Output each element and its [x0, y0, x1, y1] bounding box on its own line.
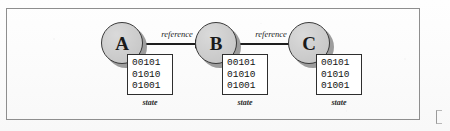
- state-box-b: 00101 01010 01001: [222, 54, 268, 95]
- state-row: 01001: [132, 80, 169, 92]
- node-a-label: A: [115, 34, 129, 53]
- state-caption-b: state: [222, 98, 268, 107]
- node-c-label: C: [302, 34, 316, 53]
- state-box-a: 00101 01010 01001: [127, 54, 173, 95]
- state-row: 00101: [227, 57, 264, 69]
- state-row: 01010: [132, 69, 169, 81]
- state-caption-a: state: [127, 98, 173, 107]
- state-row: 00101: [321, 57, 358, 69]
- state-row: 01001: [227, 80, 264, 92]
- node-b-label: B: [210, 34, 223, 53]
- page-bracket-mark: [436, 110, 442, 124]
- state-caption-c: state: [316, 98, 362, 107]
- state-row: 00101: [132, 57, 169, 69]
- figure-canvas: reference reference A B C 00101: [0, 0, 450, 131]
- state-row: 01010: [227, 69, 264, 81]
- state-box-c: 00101 01010 01001: [316, 54, 362, 95]
- state-row: 01010: [321, 69, 358, 81]
- state-row: 01001: [321, 80, 358, 92]
